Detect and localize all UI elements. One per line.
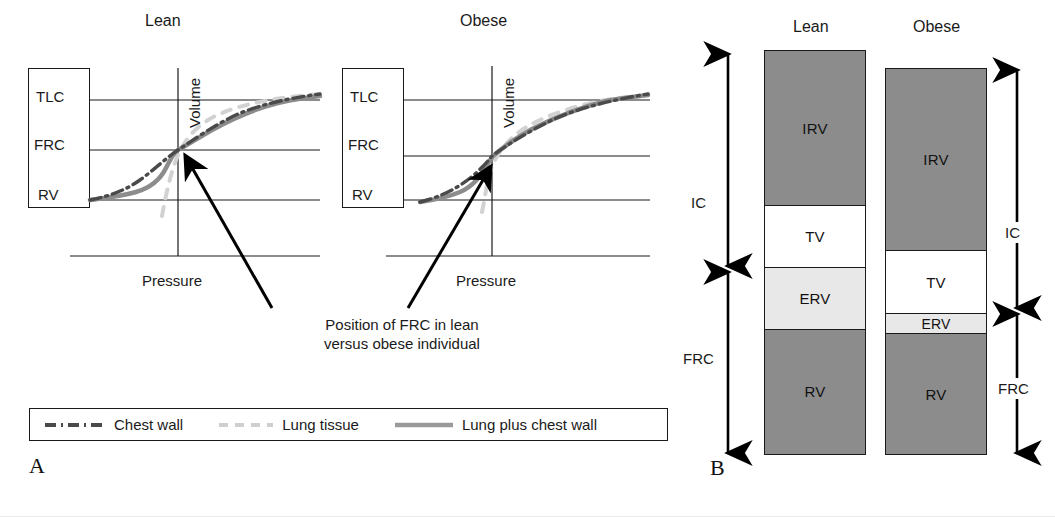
legend-swatch-dash-dot-icon — [44, 420, 106, 430]
chart-obese-x-axis-label: Pressure — [456, 272, 516, 289]
panel-a: Lean Volume TLC FRC RV — [0, 0, 680, 470]
obese-segment-tv: TV — [886, 250, 986, 314]
obese-segment-rv: RV — [886, 333, 986, 454]
frc-annotation-line2: versus obese individual — [252, 335, 552, 352]
legend-swatch-solid-icon — [394, 420, 454, 430]
chart-lean-x-axis-label: Pressure — [142, 272, 202, 289]
obese-segment-erv-label: ERV — [921, 316, 950, 332]
legend-label-chest-wall: Chest wall — [114, 416, 183, 433]
obese-segment-tv-label: TV — [926, 274, 946, 291]
chart-lean: Lean Volume TLC FRC RV — [10, 8, 330, 308]
lean-volume-bar: IRV TV ERV RV — [764, 50, 866, 455]
legend-item-chest-wall: Chest wall — [44, 416, 183, 433]
lean-bracket-label-ic: IC — [688, 192, 709, 213]
legend-label-lung-tissue: Lung tissue — [282, 416, 359, 433]
lean-segment-rv: RV — [765, 329, 865, 454]
obese-volume-bar: IRV TV ERV RV — [885, 68, 987, 455]
panel-b: Lean Obese IC FRC IRV TV — [680, 0, 1055, 490]
lean-segment-tv: TV — [765, 205, 865, 267]
obese-bracket-label-frc: FRC — [995, 378, 1032, 399]
chart-obese-plot — [330, 8, 660, 308]
legend-label-lung-plus-chest-wall: Lung plus chest wall — [462, 416, 597, 433]
legend-swatch-dashed-icon — [218, 420, 274, 430]
lean-bracket-label-frc: FRC — [680, 348, 717, 369]
lean-segment-erv-label: ERV — [799, 290, 830, 307]
legend: Chest wall Lung tissue Lung plus chest w… — [29, 408, 668, 441]
obese-segment-irv: IRV — [886, 69, 986, 250]
panel-b-lean-title: Lean — [793, 18, 829, 36]
panel-a-letter: A — [29, 453, 45, 479]
lean-bracket-arrows — [698, 44, 758, 464]
legend-item-lung-tissue: Lung tissue — [218, 416, 359, 433]
chart-obese: Obese Volume TLC FRC RV — [330, 8, 660, 308]
lean-segment-rv-label: RV — [805, 383, 826, 400]
lean-segment-erv: ERV — [765, 267, 865, 329]
lean-segment-irv: IRV — [765, 51, 865, 205]
frc-annotation: Position of FRC in lean versus obese ind… — [252, 316, 552, 353]
panel-b-letter: B — [710, 455, 725, 481]
frc-annotation-line1: Position of FRC in lean — [252, 316, 552, 333]
obese-segment-irv-label: IRV — [923, 151, 948, 168]
panel-b-obese-title: Obese — [913, 18, 960, 36]
obese-bracket-label-ic: IC — [1002, 222, 1023, 243]
obese-segment-erv: ERV — [886, 313, 986, 333]
legend-item-lung-plus-chest-wall: Lung plus chest wall — [394, 416, 597, 433]
lean-segment-tv-label: TV — [805, 228, 825, 245]
obese-segment-rv-label: RV — [926, 386, 947, 403]
chart-lean-plot: ​ — [10, 8, 330, 308]
obese-bracket-arrows — [990, 60, 1050, 465]
figure-canvas: Lean Volume TLC FRC RV — [0, 0, 1055, 517]
lean-segment-irv-label: IRV — [802, 120, 827, 137]
